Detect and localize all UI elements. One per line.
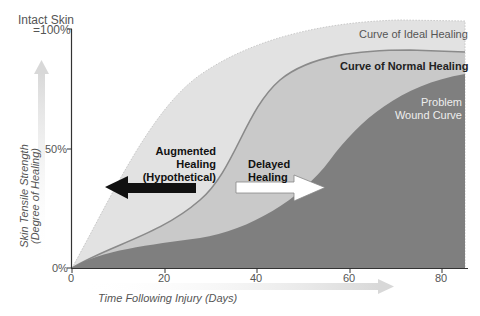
delayed-line1: Delayed — [248, 158, 290, 171]
y-axis-title: Skin Tensile Strength (Degree of Healing… — [19, 116, 41, 276]
ideal-healing-label: Curve of Ideal Healing — [359, 28, 468, 40]
y-tick-50: 50% — [45, 143, 67, 155]
y-axis-title-line2: (Degree of Healing) — [30, 116, 41, 276]
x-tick-20: 20 — [158, 272, 170, 284]
y-tick-100: =100% — [33, 23, 71, 37]
augmented-line3: (Hypothetical) — [130, 171, 216, 184]
healing-chart — [0, 0, 480, 316]
delayed-healing-label: Delayed Healing — [248, 158, 290, 184]
delayed-line2: Healing — [248, 171, 290, 184]
normal-healing-label: Curve of Normal Healing — [340, 60, 468, 72]
x-tick-80: 80 — [435, 272, 447, 284]
x-axis-title: Time Following Injury (Days) — [98, 292, 237, 304]
augmented-line2: Healing — [130, 158, 216, 171]
x-tick-40: 40 — [250, 272, 262, 284]
augmented-line1: Augmented — [130, 145, 216, 158]
y-tick-0: 0% — [52, 262, 68, 274]
problem-wound-label-line2: Wound Curve — [380, 109, 462, 122]
x-tick-0: 0 — [68, 272, 74, 284]
problem-wound-label-line1: Problem — [380, 96, 462, 109]
x-tick-60: 60 — [343, 272, 355, 284]
problem-wound-label: Problem Wound Curve — [380, 96, 462, 122]
augmented-healing-label: Augmented Healing (Hypothetical) — [130, 145, 216, 184]
